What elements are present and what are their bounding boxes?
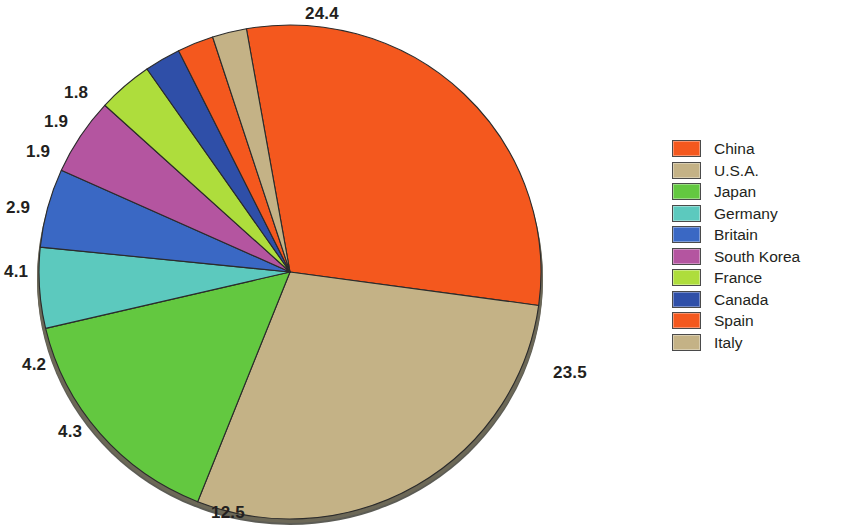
legend-swatch-italy	[672, 334, 701, 351]
legend-swatch-germany	[672, 205, 701, 222]
legend-swatch-france	[672, 269, 701, 286]
legend-item-italy[interactable]: Italy	[672, 332, 837, 354]
legend-swatch-china	[672, 140, 701, 157]
slice-value-south-korea: 4.1	[4, 262, 28, 282]
slice-value-canada: 1.9	[26, 142, 50, 162]
slice-value-usa: 23.5	[553, 363, 587, 383]
legend-label-spain: Spain	[714, 313, 754, 329]
legend-swatch-south-korea	[672, 248, 701, 265]
slice-value-china: 24.4	[305, 4, 339, 24]
legend-item-china[interactable]: China	[672, 138, 837, 160]
legend-swatch-canada	[672, 291, 701, 308]
legend-item-south-korea[interactable]: South Korea	[672, 246, 837, 268]
chart-legend: ChinaU.S.A.JapanGermanyBritainSouth Kore…	[672, 138, 837, 353]
pie-chart-canvas	[0, 0, 620, 529]
legend-label-japan: Japan	[714, 184, 756, 200]
legend-label-britain: Britain	[714, 227, 758, 243]
legend-label-china: China	[714, 141, 755, 157]
legend-item-britain[interactable]: Britain	[672, 224, 837, 246]
slice-value-britain: 4.2	[22, 355, 46, 375]
legend-swatch-spain	[672, 312, 701, 329]
pie-chart-figure: 24.4 23.5 12.5 4.3 4.2 4.1 2.9 1.9 1.9 1…	[0, 0, 841, 529]
legend-label-france: France	[714, 270, 762, 286]
legend-item-france[interactable]: France	[672, 267, 837, 289]
legend-label-germany: Germany	[714, 206, 778, 222]
legend-label-canada: Canada	[714, 292, 768, 308]
legend-swatch-u-s-a	[672, 162, 701, 179]
legend-swatch-japan	[672, 183, 701, 200]
legend-label-south-korea: South Korea	[714, 249, 800, 265]
legend-swatch-britain	[672, 226, 701, 243]
slice-value-italy: 1.8	[64, 83, 88, 103]
legend-item-germany[interactable]: Germany	[672, 203, 837, 225]
legend-item-spain[interactable]: Spain	[672, 310, 837, 332]
legend-item-u-s-a[interactable]: U.S.A.	[672, 160, 837, 182]
legend-label-u-s-a: U.S.A.	[714, 163, 759, 179]
pie-slices-group	[39, 25, 541, 519]
pie-slice-china	[246, 25, 541, 305]
slice-value-japan: 12.5	[211, 503, 245, 523]
legend-item-japan[interactable]: Japan	[672, 181, 837, 203]
legend-label-italy: Italy	[714, 335, 742, 351]
legend-item-canada[interactable]: Canada	[672, 289, 837, 311]
slice-value-france: 2.9	[6, 198, 30, 218]
slice-value-spain: 1.9	[44, 112, 68, 132]
slice-value-germany: 4.3	[58, 422, 82, 442]
